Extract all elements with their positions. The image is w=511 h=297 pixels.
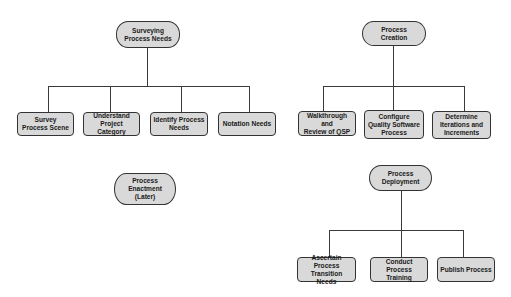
connector xyxy=(147,47,148,86)
connector xyxy=(401,190,402,230)
connector xyxy=(393,86,394,110)
node-identify-process-needs: Identify Process Needs xyxy=(150,112,208,136)
node-survey-process-scene: Survey Process Scene xyxy=(17,112,74,136)
connector xyxy=(110,86,111,112)
node-walkthrough-review-qsp: Walkthrough and Review of QSP xyxy=(298,111,356,136)
connector xyxy=(48,86,49,112)
node-conduct-process-training: Conduct Process Training xyxy=(370,257,428,282)
node-process-deployment: Process Deployment xyxy=(369,165,432,191)
connector xyxy=(181,86,182,112)
connector xyxy=(463,230,464,257)
connector xyxy=(48,86,250,87)
connector xyxy=(393,45,394,86)
node-publish-process: Publish Process xyxy=(437,257,495,282)
node-configure-quality-software-process: Configure Quality Software Process xyxy=(364,110,424,139)
node-determine-iterations-increments: Determine Iterations and Increments xyxy=(432,111,491,139)
node-understand-project-category: Understand Project Category xyxy=(83,112,140,136)
node-process-enactment: Process Enactment (Later) xyxy=(114,173,176,205)
connector xyxy=(329,230,464,231)
node-ascertain-process-transition-needs: Ascertain Process Transition Needs xyxy=(297,257,356,282)
connector xyxy=(464,86,465,111)
connector xyxy=(249,86,250,112)
connector xyxy=(323,86,465,87)
node-process-creation: Process Creation xyxy=(362,21,426,46)
connector xyxy=(401,230,402,257)
node-notation-needs: Notation Needs xyxy=(218,112,276,136)
connector xyxy=(323,86,324,111)
node-surveying-process-needs: Surveying Process Needs xyxy=(116,21,180,48)
